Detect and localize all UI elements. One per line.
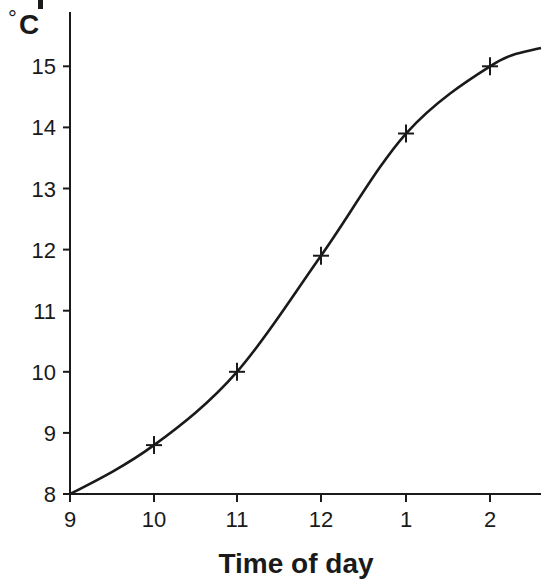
x-tick-label: 10 [142, 507, 166, 532]
x-tick-label: 1 [400, 507, 412, 532]
y-tick-label: 8 [44, 482, 56, 507]
x-axis-title: Time of day [218, 548, 374, 579]
temperature-line-chart: ° C 89101112131415 910111212 Time of day [0, 0, 549, 586]
x-tick-label: 11 [226, 507, 249, 532]
x-tick-label: 2 [484, 507, 496, 532]
y-tick-label: 13 [32, 177, 56, 202]
x-tick-label: 9 [64, 507, 76, 532]
plus-marker-icon [146, 436, 162, 454]
data-point-markers [146, 57, 498, 454]
x-axis-ticks: 910111212 [64, 494, 496, 532]
y-unit-label: C [19, 9, 39, 40]
y-tick-label: 11 [33, 299, 56, 324]
y-unit-degree: ° [8, 6, 17, 31]
y-tick-label: 12 [32, 238, 56, 263]
plus-marker-icon [482, 57, 498, 75]
chart-title-fragment [38, 0, 43, 9]
y-tick-label: 10 [32, 360, 56, 385]
y-axis-ticks: 89101112131415 [32, 54, 70, 507]
temperature-curve [70, 48, 541, 494]
x-tick-label: 12 [309, 507, 333, 532]
y-tick-label: 15 [32, 54, 56, 79]
y-tick-label: 9 [44, 421, 56, 446]
y-tick-label: 14 [32, 115, 56, 140]
